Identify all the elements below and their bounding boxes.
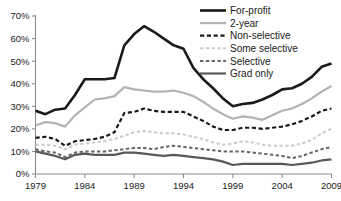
y-tick-label: 30% [10, 101, 30, 112]
y-tick-label: 0% [16, 168, 30, 179]
legend-label: For-profit [230, 5, 271, 16]
y-tick-label: 60% [10, 33, 30, 44]
x-tick-label: 2004 [272, 180, 293, 191]
chart-plot-area: 70%60%50%40%30%20%10%0% 1979198419891994… [0, 0, 341, 201]
y-tick-label: 50% [10, 56, 30, 67]
legend-label: Selective [230, 56, 271, 67]
legend-label: 2-year [230, 18, 259, 29]
x-tick-label: 1984 [74, 180, 95, 191]
x-tick-label: 1994 [173, 180, 194, 191]
legend-label: Grad only [230, 68, 273, 79]
x-tick-label: 1999 [222, 180, 243, 191]
y-tick-label: 20% [10, 123, 30, 134]
y-tick-label: 10% [10, 146, 30, 157]
y-tick-label: 70% [10, 10, 30, 21]
x-tick-label: 2009 [321, 180, 341, 191]
x-tick-label: 1989 [124, 180, 145, 191]
legend-label: Non-selective [230, 30, 291, 41]
x-tick-label: 1979 [25, 180, 46, 191]
line-chart: 70%60%50%40%30%20%10%0% 1979198419891994… [0, 0, 341, 201]
y-tick-label: 40% [10, 78, 30, 89]
legend-label: Some selective [230, 43, 298, 54]
